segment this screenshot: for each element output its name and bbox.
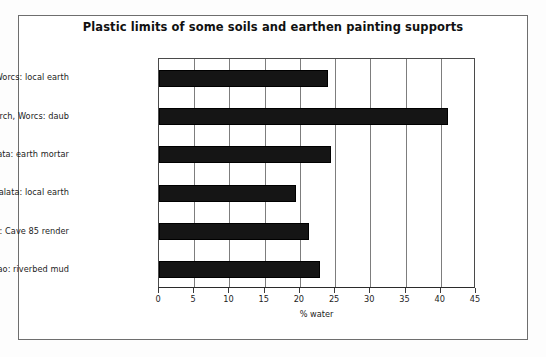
x-tick-label: 0 — [143, 294, 173, 304]
bar-row — [159, 59, 474, 97]
x-tick-label: 25 — [319, 294, 349, 304]
x-tick-label: 20 — [284, 294, 314, 304]
x-tick-label: 5 — [178, 294, 208, 304]
bar-row — [159, 97, 474, 135]
category-label: UK Alvechurch, Worcs: daub — [0, 111, 69, 121]
x-tick-label: 45 — [460, 294, 490, 304]
bar-row — [159, 212, 474, 250]
category-label: Cyprus: Galata: local earth — [0, 187, 69, 197]
category-label: China: Mogao: Cave 85 render — [0, 226, 69, 236]
x-tick-mark — [158, 288, 159, 293]
x-tick-label: 30 — [354, 294, 384, 304]
x-tick-mark — [405, 288, 406, 293]
x-tick-mark — [264, 288, 265, 293]
chart-figure: Plastic limits of some soils and earthen… — [0, 0, 546, 357]
chart-title: Plastic limits of some soils and earthen… — [0, 20, 546, 34]
bar — [159, 261, 320, 278]
bar — [159, 70, 328, 87]
x-tick-mark — [440, 288, 441, 293]
x-tick-label: 40 — [425, 294, 455, 304]
x-tick-label: 15 — [249, 294, 279, 304]
x-tick-mark — [193, 288, 194, 293]
bar — [159, 146, 331, 163]
x-tick-mark — [475, 288, 476, 293]
x-tick-label: 35 — [390, 294, 420, 304]
bar-row — [159, 251, 474, 289]
bar — [159, 108, 448, 125]
plot-area — [158, 58, 475, 288]
x-axis-title: % water — [158, 309, 475, 319]
bar-row — [159, 136, 474, 174]
category-label: China: Mogao: riverbed mud — [0, 264, 69, 274]
bar — [159, 185, 296, 202]
bar — [159, 223, 309, 240]
x-tick-mark — [228, 288, 229, 293]
category-label: Cyprus: Galata: earth mortar — [0, 149, 69, 159]
bar-row — [159, 174, 474, 212]
x-tick-mark — [334, 288, 335, 293]
x-tick-mark — [299, 288, 300, 293]
category-label: UK:Alvechurch, Worcs: local earth — [0, 72, 69, 82]
x-tick-label: 10 — [213, 294, 243, 304]
x-tick-mark — [369, 288, 370, 293]
